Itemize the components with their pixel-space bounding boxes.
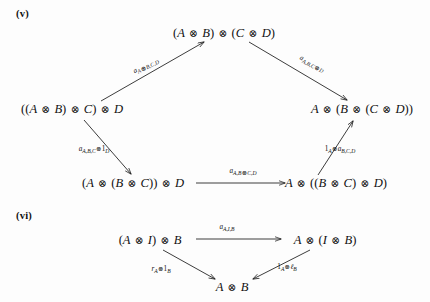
arrow-label-left-to-bottom-left: aA,B,C⊗1D	[79, 146, 110, 153]
node-pentagon-bottom-right: A ⊗ ((B ⊗ C) ⊗ D)	[285, 177, 387, 190]
node-pentagon-right: A ⊗ (B ⊗ (C ⊗ D))	[311, 103, 413, 116]
arrow-label-left-to-top: aA⊗B,C,D	[132, 57, 159, 75]
arrow-label-triangle-right-down: 1A⊗ℓB	[277, 264, 296, 271]
arrow-tri-left-down	[163, 250, 215, 279]
node-triangle-bottom: A ⊗ B	[216, 281, 249, 294]
arrow-label-triangle-top: aA,I,B	[219, 224, 234, 231]
node-pentagon-top: (A ⊗ B) ⊗ (C ⊗ D)	[173, 27, 275, 40]
arrow-label-bottom-right-to-right: 1A⊗aB,C,D	[325, 146, 356, 153]
arrow-layer	[0, 0, 430, 302]
diagram-marker-v: (v)	[16, 8, 29, 19]
arrow-label-bottom-horizontal: aA,B⊗C,D	[230, 168, 257, 175]
node-pentagon-left: ((A ⊗ B) ⊗ C) ⊗ D	[21, 103, 123, 116]
arrow-label-top-to-right: aA,B,C⊗D	[298, 55, 325, 74]
arrow-left-to-top	[101, 42, 204, 101]
node-pentagon-bottom-left: (A ⊗ (B ⊗ C)) ⊗ D	[82, 177, 184, 190]
arrow-top-to-right	[249, 42, 347, 100]
node-triangle-right: A ⊗ (I ⊗ B)	[294, 234, 357, 247]
arrow-label-triangle-left-down: rA⊗1B	[151, 266, 170, 273]
diagram-page: (v) (A ⊗ B) ⊗ (C ⊗ D) ((A ⊗ B) ⊗ C) ⊗ D …	[0, 0, 430, 302]
diagram-marker-vi: (vi)	[16, 210, 32, 221]
node-triangle-left: (A ⊗ I) ⊗ B	[119, 234, 182, 247]
